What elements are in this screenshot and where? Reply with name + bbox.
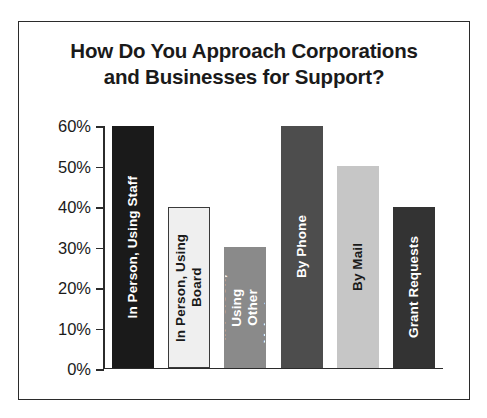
chart-title: How Do You Approach Corporations and Bus… <box>19 38 469 90</box>
y-axis-tick <box>96 207 104 209</box>
bar[interactable]: By Phone <box>281 126 323 368</box>
bar-label: Grant Requests <box>406 230 422 344</box>
bar-label: By Phone <box>294 209 310 284</box>
y-axis-label: 0% <box>67 360 91 379</box>
y-axis-tick <box>96 329 104 331</box>
bar[interactable]: By Mail <box>337 166 379 367</box>
y-axis-label: 10% <box>58 319 91 338</box>
x-axis-line <box>103 368 443 370</box>
bar-label: In Person, Using Other Volunteers <box>224 248 266 367</box>
bar-label: In Person, Using Board <box>173 208 205 367</box>
y-axis-label: 50% <box>58 157 91 176</box>
plot-area: 0%10%20%30%40%50%60% In Person, Using St… <box>103 126 443 369</box>
y-axis-label: 60% <box>58 117 91 136</box>
bar[interactable]: In Person, Using Other Volunteers <box>224 247 266 368</box>
bar[interactable]: In Person, Using Staff <box>112 126 154 368</box>
bar-label: By Mail <box>350 237 366 297</box>
y-axis-tick <box>96 126 104 128</box>
y-axis-tick <box>96 288 104 290</box>
y-axis-tick <box>96 167 104 169</box>
bar-label: In Person, Using Staff <box>125 170 141 324</box>
y-axis-tick <box>96 369 104 371</box>
bar-series: In Person, Using StaffIn Person, Using B… <box>105 126 443 368</box>
bar[interactable]: In Person, Using Board <box>168 207 210 368</box>
y-axis-label: 20% <box>58 279 91 298</box>
bar[interactable]: Grant Requests <box>393 207 435 368</box>
y-axis-label: 30% <box>58 238 91 257</box>
y-axis-tick <box>96 248 104 250</box>
chart-frame: How Do You Approach Corporations and Bus… <box>18 21 470 400</box>
y-axis-label: 40% <box>58 198 91 217</box>
